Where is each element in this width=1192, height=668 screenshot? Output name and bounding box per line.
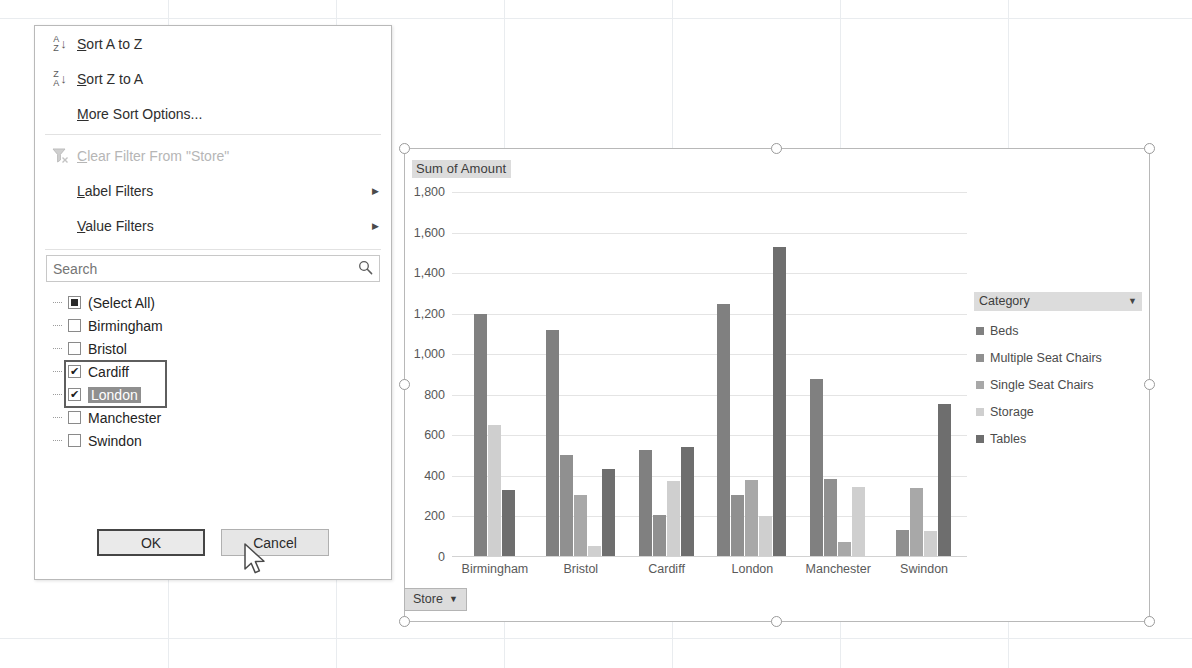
- checkbox-cardiff[interactable]: [68, 365, 81, 378]
- field-button-label: Store: [413, 592, 443, 606]
- tree-connector-icon: [46, 337, 68, 360]
- pivot-filter-dropdown[interactable]: AZ↓ Sort A to Z ZA↓ Sort Z to A More Sor…: [34, 25, 392, 580]
- checkbox-swindon[interactable]: [68, 434, 81, 447]
- filter-list-item-label: (Select All): [88, 295, 155, 311]
- menu-item-clear-filter: Clear Filter From "Store": [35, 138, 391, 173]
- tree-connector-icon: [46, 314, 68, 337]
- filter-list-item[interactable]: (Select All): [46, 291, 380, 314]
- search-input[interactable]: [46, 255, 380, 282]
- menu-separator: [45, 249, 381, 250]
- cancel-button[interactable]: Cancel: [221, 529, 329, 556]
- sort-descending-icon: ZA↓: [43, 70, 77, 87]
- chart-bar: [602, 469, 615, 557]
- menu-item-value-filters[interactable]: Value Filters ▶: [35, 208, 391, 243]
- chart-resize-handle-middle-left[interactable]: [399, 379, 410, 390]
- checkbox-birmingham[interactable]: [68, 319, 81, 332]
- chart-x-axis-line: [452, 556, 967, 557]
- filter-value-list[interactable]: (Select All)BirminghamBristolCardiffLond…: [46, 291, 380, 452]
- clear-filter-icon: [43, 148, 77, 163]
- pivot-field-button-store[interactable]: Store ▼: [404, 588, 467, 611]
- menu-item-label: Clear Filter From "Store": [77, 148, 379, 164]
- legend-item: Multiple Seat Chairs: [974, 351, 1142, 365]
- checkbox-select-all[interactable]: [68, 296, 81, 309]
- menu-item-label-filters[interactable]: Label Filters ▶: [35, 173, 391, 208]
- chart-bar: [745, 480, 758, 557]
- menu-item-more-sort-options[interactable]: More Sort Options...: [35, 96, 391, 131]
- chart-bar: [759, 516, 772, 557]
- chart-bar: [910, 488, 923, 557]
- checkbox-london[interactable]: [68, 388, 81, 401]
- chart-resize-handle-bottom-left[interactable]: [399, 616, 410, 627]
- chart-resize-handle-top-right[interactable]: [1144, 143, 1155, 154]
- chart-bar: [731, 495, 744, 557]
- y-axis-tick-label: 1,000: [414, 347, 445, 361]
- y-axis-tick-label: 600: [424, 428, 445, 442]
- filter-list-item[interactable]: Swindon: [46, 429, 380, 452]
- y-axis-tick-label: 1,200: [414, 307, 445, 321]
- legend-swatch-icon: [976, 408, 984, 416]
- chevron-down-icon: ▼: [449, 594, 458, 604]
- y-axis-tick-label: 400: [424, 469, 445, 483]
- chart-bar: [938, 404, 951, 557]
- filter-list-item[interactable]: Birmingham: [46, 314, 380, 337]
- chart-bar: [546, 330, 559, 557]
- chart-bar: [810, 379, 823, 557]
- tree-connector-icon: [46, 406, 68, 429]
- chart-bar-group: Swindon: [881, 192, 967, 557]
- chart-bar: [488, 425, 501, 557]
- chart-bar: [824, 479, 837, 557]
- chart-bar-group: Bristol: [538, 192, 624, 557]
- filter-list-item[interactable]: Cardiff: [46, 360, 380, 383]
- excel-worksheet-canvas: Sum of Amount 02004006008001,0001,2001,4…: [0, 0, 1192, 668]
- search-icon[interactable]: [358, 260, 373, 278]
- menu-item-label: Label Filters: [77, 183, 372, 199]
- menu-item-label: Sort A to Z: [77, 36, 379, 52]
- chart-bar-group: Manchester: [795, 192, 881, 557]
- legend-item: Tables: [974, 432, 1142, 446]
- chart-bar: [574, 495, 587, 557]
- filter-list-item[interactable]: London: [46, 383, 380, 406]
- filter-list-item-label: Birmingham: [88, 318, 163, 334]
- legend-item-label: Multiple Seat Chairs: [990, 351, 1102, 365]
- filter-list-item-label: Cardiff: [88, 364, 129, 380]
- chart-bar: [474, 314, 487, 557]
- y-axis-tick-label: 1,600: [414, 226, 445, 240]
- filter-list-item-label: Manchester: [88, 410, 161, 426]
- legend-item-label: Beds: [990, 324, 1019, 338]
- chart-bar: [560, 455, 573, 557]
- chart-resize-handle-top-left[interactable]: [399, 143, 410, 154]
- legend-item: Single Seat Chairs: [974, 378, 1142, 392]
- filter-list-item[interactable]: Manchester: [46, 406, 380, 429]
- menu-item-sort-z-to-a[interactable]: ZA↓ Sort Z to A: [35, 61, 391, 96]
- chart-resize-handle-bottom-right[interactable]: [1144, 616, 1155, 627]
- chart-resize-handle-bottom-center[interactable]: [771, 616, 782, 627]
- x-axis-tick-label: Birmingham: [452, 562, 538, 576]
- chart-bar: [717, 304, 730, 557]
- mouse-cursor: [243, 543, 269, 581]
- legend-item-label: Tables: [990, 432, 1026, 446]
- chart-bar: [502, 490, 515, 557]
- chart-bar: [681, 447, 694, 558]
- chart-bar: [653, 515, 666, 557]
- filter-list-item[interactable]: Bristol: [46, 337, 380, 360]
- ok-button[interactable]: OK: [97, 529, 205, 556]
- tree-connector-icon: [46, 291, 68, 314]
- chart-resize-handle-top-center[interactable]: [771, 143, 782, 154]
- legend-swatch-icon: [976, 354, 984, 362]
- checkbox-bristol[interactable]: [68, 342, 81, 355]
- chart-title: Sum of Amount: [412, 160, 511, 178]
- checkbox-manchester[interactable]: [68, 411, 81, 424]
- x-axis-tick-label: Swindon: [881, 562, 967, 576]
- menu-item-label: Value Filters: [77, 218, 372, 234]
- y-axis-tick-label: 1,800: [414, 185, 445, 199]
- worksheet-gridline: [0, 638, 1192, 639]
- chart-bar-group: Birmingham: [452, 192, 538, 557]
- chart-bar: [896, 530, 909, 557]
- legend-item-label: Single Seat Chairs: [990, 378, 1094, 392]
- pivot-chart-object[interactable]: Sum of Amount 02004006008001,0001,2001,4…: [404, 148, 1150, 622]
- chart-resize-handle-middle-right[interactable]: [1144, 379, 1155, 390]
- chart-plot-area: 02004006008001,0001,2001,4001,6001,800 B…: [452, 192, 967, 557]
- menu-item-sort-a-to-z[interactable]: AZ↓ Sort A to Z: [35, 26, 391, 61]
- legend-field-button-category[interactable]: Category ▼: [974, 292, 1142, 311]
- worksheet-gridline: [0, 18, 1192, 19]
